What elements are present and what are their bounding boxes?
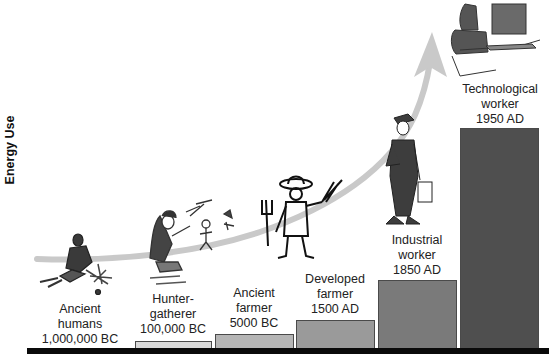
caption-ancient-humans: Ancient humans 1,000,000 BC bbox=[28, 302, 132, 347]
bar-developed-farmer bbox=[296, 320, 375, 349]
caption-industrial-worker: Industrial worker 1850 AD bbox=[374, 233, 460, 278]
caption-developed-farmer: Developed farmer 1500 AD bbox=[292, 272, 378, 317]
y-axis-label: Energy Use bbox=[3, 100, 19, 200]
crouching-human-fire-icon bbox=[40, 234, 112, 295]
caption-ancient-farmer: Ancient farmer 5000 BC bbox=[213, 286, 295, 331]
bar-industrial-worker bbox=[378, 280, 457, 349]
industrial-worker-icon bbox=[386, 114, 432, 224]
energy-use-diagram: Energy Use Ancient humans 1,000,000 BC H… bbox=[0, 0, 549, 362]
baseline-axis bbox=[27, 348, 549, 354]
computer-worker-icon bbox=[451, 4, 540, 76]
caption-technological-worker: Technological worker 1950 AD bbox=[452, 82, 548, 127]
growth-arrow-icon bbox=[37, 32, 447, 260]
bar-technological-worker bbox=[460, 128, 539, 349]
caption-hunter-gatherer: Hunter- gatherer 100,000 BC bbox=[130, 292, 216, 337]
bar-ancient-farmer bbox=[215, 334, 294, 349]
